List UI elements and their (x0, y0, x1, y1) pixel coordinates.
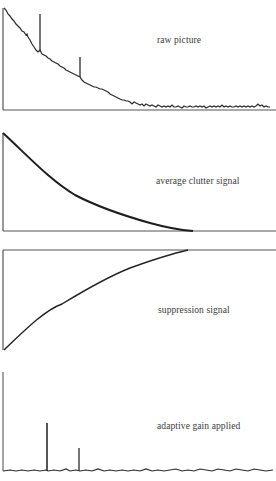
panel-label-raw-picture: raw picture (157, 35, 201, 45)
panel-raw-picture (3, 8, 276, 110)
panel-suppression (3, 250, 276, 350)
gain-applied-trace (3, 469, 273, 471)
plots-canvas (0, 0, 276, 481)
figure: raw picture average clutter signal suppr… (0, 0, 276, 481)
suppression-curve (4, 250, 188, 350)
panel-label-adaptive-gain: adaptive gain applied (157, 421, 240, 431)
panel-label-average-clutter: average clutter signal (156, 176, 239, 186)
panel-label-suppression: suppression signal (158, 305, 230, 315)
raw-signal-trace (4, 8, 270, 108)
